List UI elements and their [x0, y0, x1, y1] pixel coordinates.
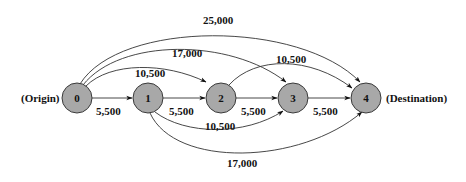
edge-label-0-1: 5,500 [96, 105, 121, 117]
edge-label-1-3: 10,500 [205, 120, 236, 132]
node-0: 0 [62, 83, 92, 113]
node-label-1: 1 [145, 92, 151, 104]
edge-0-1: 5,500 [92, 98, 132, 117]
node-1: 1 [133, 83, 163, 113]
node-2: 2 [206, 83, 236, 113]
edge-1-2: 5,500 [163, 98, 205, 117]
edge-label-0-3: 17,000 [172, 47, 203, 59]
edge-0-4: 25,000 [80, 14, 360, 84]
node-4: 4 [351, 83, 381, 113]
destination-label: (Destination) [386, 92, 447, 105]
edge-0-3: 17,000 [83, 47, 286, 85]
node-label-0: 0 [74, 92, 80, 104]
edge-label-3-4: 5,500 [313, 105, 338, 117]
edge-2-3: 5,500 [236, 98, 277, 117]
edge-label-1-4: 17,000 [227, 157, 258, 169]
edge-1-4: 17,000 [150, 112, 362, 169]
edge-label-0-4: 25,000 [203, 14, 234, 26]
edge-label-0-2: 10,500 [135, 67, 166, 79]
node-label-3: 3 [290, 92, 296, 104]
edge-3-4: 5,500 [308, 98, 350, 117]
edge-label-2-4: 10,500 [276, 53, 307, 65]
network-diagram: 5,500 5,500 5,500 5,500 10,500 17,000 25… [0, 0, 466, 182]
edge-label-2-3: 5,500 [241, 105, 266, 117]
edge-label-1-2: 5,500 [169, 105, 194, 117]
node-label-2: 2 [218, 92, 224, 104]
node-label-4: 4 [363, 92, 369, 104]
origin-label: (Origin) [21, 92, 60, 105]
node-3: 3 [278, 83, 308, 113]
